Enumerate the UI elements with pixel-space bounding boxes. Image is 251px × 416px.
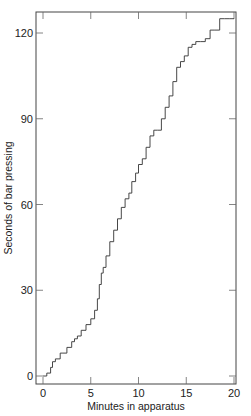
x-tick-label: 5 [88,387,94,399]
plot-frame [36,12,236,384]
y-tick-label: 30 [21,284,33,296]
y-tick-label: 60 [21,199,33,211]
x-axis-label: Minutes in apparatus [87,400,184,412]
cumulative-record-chart: 0306090120 05101520 Minutes in apparatus… [0,0,251,416]
cumulative-curve [43,19,234,376]
x-tick-label: 10 [132,387,144,399]
x-tick-label: 20 [228,387,240,399]
y-axis-label: Seconds of bar pressing [2,141,14,254]
y-tick-label: 120 [15,27,33,39]
x-tick-label: 15 [180,387,192,399]
x-tick-label: 0 [40,387,46,399]
x-axis-ticks: 05101520 [40,12,240,399]
y-tick-label: 0 [27,370,33,382]
y-tick-label: 90 [21,113,33,125]
